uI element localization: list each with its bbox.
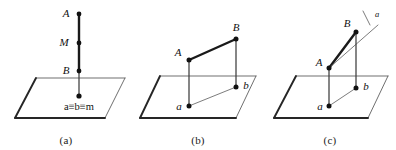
label-point-a: a: [176, 100, 182, 112]
label-point-b: b: [243, 79, 249, 91]
caption-panel-a: (a): [0, 134, 132, 146]
point-A-dot: [327, 66, 332, 71]
point-b-dot: [354, 86, 359, 91]
panel-a-drawing: A M B a≡b≡m: [0, 0, 132, 150]
plane-b: [140, 76, 256, 118]
point-B-dot: [77, 69, 82, 74]
plane-right-edge: [105, 78, 125, 118]
panel-c: A B a b a (c): [264, 0, 396, 150]
point-A-dot: [187, 58, 192, 63]
plane-c: [274, 76, 388, 118]
point-M-dot: [77, 41, 82, 46]
label-point-b: b: [363, 80, 369, 92]
point-projection-dot: [76, 93, 81, 98]
panel-a: A M B a≡b≡m (a): [0, 0, 132, 150]
plane-left-edge: [274, 76, 296, 118]
label-point-B: B: [63, 64, 70, 76]
ray-tick-mark: [363, 11, 370, 25]
label-projection-abm: a≡b≡m: [64, 101, 94, 112]
plane-left-edge: [140, 76, 160, 118]
label-point-a: a: [317, 100, 323, 112]
segment-ab-projection: [189, 87, 236, 106]
label-ray-a: a: [375, 9, 379, 19]
label-point-B: B: [233, 21, 240, 33]
plane-left-edge: [15, 78, 36, 118]
geometry-figure: A M B a≡b≡m (a): [0, 0, 396, 150]
label-point-B: B: [344, 17, 351, 29]
label-point-M: M: [58, 36, 69, 48]
point-a-dot: [327, 104, 332, 109]
segment-ab-projection: [329, 88, 356, 106]
point-A-dot: [77, 12, 82, 17]
segment-AB: [329, 32, 356, 68]
label-point-A: A: [62, 7, 70, 19]
panel-b-drawing: A B a b: [130, 0, 266, 150]
caption-panel-b: (b): [130, 134, 266, 146]
ray-a: [329, 25, 378, 68]
segment-AB: [189, 39, 236, 60]
point-B-dot: [234, 37, 239, 42]
point-a-dot: [187, 104, 192, 109]
label-point-A: A: [315, 56, 323, 68]
point-B-dot: [354, 30, 359, 35]
label-point-A: A: [174, 46, 182, 58]
panel-c-drawing: A B a b a: [264, 0, 396, 150]
caption-panel-c: (c): [264, 134, 396, 146]
point-b-dot: [234, 85, 239, 90]
plane-right-edge: [368, 76, 388, 118]
plane-a: [15, 78, 125, 118]
panel-b: A B a b (b): [130, 0, 266, 150]
